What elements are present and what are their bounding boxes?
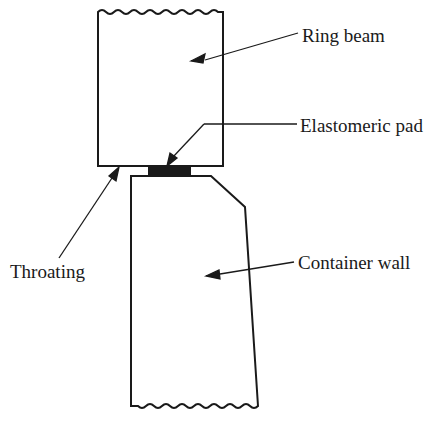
label-ring-beam: Ring beam <box>302 26 385 45</box>
diagram-canvas <box>0 0 447 435</box>
arrowhead-icon <box>191 54 205 63</box>
label-elastomeric-pad: Elastomeric pad <box>300 116 423 135</box>
elastomeric-pad <box>148 167 191 176</box>
container-wall <box>131 176 258 408</box>
label-throating: Throating <box>10 262 85 281</box>
arrowhead-icon <box>109 167 119 181</box>
arrowhead-icon <box>206 270 220 279</box>
container-wall-leader <box>220 262 294 274</box>
ring-beam <box>98 10 223 166</box>
label-container-wall: Container wall <box>298 253 410 272</box>
ring-beam-leader <box>205 33 298 60</box>
throating-leader <box>59 178 112 258</box>
